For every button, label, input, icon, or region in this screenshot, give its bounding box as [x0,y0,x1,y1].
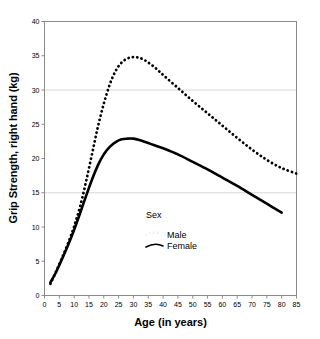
x-tick-label: 25 [115,301,123,308]
y-axis-ticks: 0510152025303540 [32,18,45,299]
x-tick-label: 60 [218,301,226,308]
x-tick-label: 50 [189,301,197,308]
legend: SexMaleFemale [146,210,197,251]
legend-female-label: Female [167,241,197,251]
x-tick-label: 5 [57,301,61,308]
x-tick-label: 55 [204,301,212,308]
y-tick-label: 5 [36,258,40,265]
chart-figure: Grip Strength, right hand (kg) 051015202… [0,0,320,339]
x-tick-label: 75 [263,301,271,308]
y-tick-label: 40 [32,18,40,25]
x-tick-label: 0 [43,301,47,308]
y-tick-label: 25 [32,121,40,128]
y-tick-label: 10 [32,224,40,231]
female-curve [50,139,281,283]
plot-area: 0510152025303540 05101520253035404550556… [0,0,320,339]
x-tick-label: 80 [278,301,286,308]
x-tick-label: 65 [233,301,241,308]
y-tick-label: 20 [32,155,40,162]
legend-male-label: Male [167,230,187,240]
y-tick-label: 30 [32,87,40,94]
x-tick-label: 30 [130,301,138,308]
x-tick-label: 70 [248,301,256,308]
y-tick-label: 35 [32,52,40,59]
x-tick-label: 15 [85,301,93,308]
x-tick-label: 35 [144,301,152,308]
series-female-line [50,139,281,283]
plot-frame [45,22,297,296]
x-tick-label: 85 [293,301,301,308]
legend-title: Sex [146,210,162,220]
x-axis-ticks: 0510152025303540455055606570758085 [43,296,301,308]
x-axis-title: Age (in years) [44,316,297,328]
x-tick-label: 10 [70,301,78,308]
x-tick-label: 20 [100,301,108,308]
y-tick-label: 0 [36,292,40,299]
legend-male-swatch [146,233,162,235]
y-tick-label: 15 [32,189,40,196]
legend-female-swatch [146,244,163,247]
x-tick-label: 40 [159,301,167,308]
x-tick-label: 45 [174,301,182,308]
gridlines [45,90,297,193]
